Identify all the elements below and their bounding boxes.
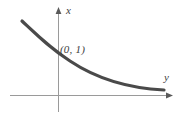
vertical-axis — [56, 7, 62, 112]
vertical-axis-arrowhead — [56, 7, 62, 14]
horizontal-axis-arrowhead — [166, 92, 173, 98]
horizontal-axis-label: y — [164, 72, 169, 83]
intercept-point-label: (0, 1) — [60, 44, 85, 55]
vertical-axis-label: x — [66, 5, 71, 16]
plot-canvas — [0, 0, 187, 115]
exponential-decay-curve — [22, 21, 164, 90]
exponential-decay-figure: x y (0, 1) — [0, 0, 187, 115]
horizontal-axis — [10, 92, 173, 98]
